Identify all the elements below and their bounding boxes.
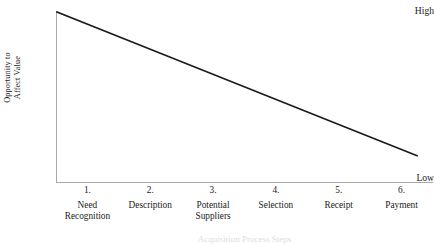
x-tick-number: 4. bbox=[244, 185, 307, 197]
x-tick-number: 1. bbox=[56, 185, 119, 197]
x-tick-name: Payment bbox=[370, 200, 433, 212]
x-tick-name: Description bbox=[119, 200, 182, 212]
x-tick-step-5: 5. Receipt bbox=[307, 185, 370, 230]
x-tick-number: 3. bbox=[182, 185, 245, 197]
x-tick-number: 5. bbox=[307, 185, 370, 197]
x-tick-name: Need Recognition bbox=[56, 200, 119, 223]
x-tick-step-3: 3. Potential Suppliers bbox=[182, 185, 245, 230]
data-series-line bbox=[57, 12, 417, 156]
x-tick-step-1: 1. Need Recognition bbox=[56, 185, 119, 230]
x-tick-number: 2. bbox=[119, 185, 182, 197]
x-axis-tick-labels: 1. Need Recognition 2. Description 3. Po… bbox=[56, 185, 433, 230]
x-axis-caption: Acquisition Process Steps bbox=[56, 234, 433, 244]
x-tick-step-2: 2. Description bbox=[119, 185, 182, 230]
x-tick-number: 6. bbox=[370, 185, 433, 197]
x-tick-name: Receipt bbox=[307, 200, 370, 212]
x-tick-name: Selection bbox=[244, 200, 307, 212]
x-tick-step-6: 6. Payment bbox=[370, 185, 433, 230]
x-tick-step-4: 4. Selection bbox=[244, 185, 307, 230]
x-tick-name: Potential Suppliers bbox=[182, 200, 245, 223]
